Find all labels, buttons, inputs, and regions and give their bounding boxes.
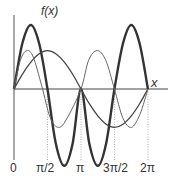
x-axis-label: x (151, 76, 158, 89)
x-tick-2pi: 2π (140, 162, 155, 174)
x-tick-pi: π (76, 162, 84, 174)
x-tick-3pi-half: 3π/2 (103, 162, 128, 174)
plot-area (0, 0, 173, 184)
x-tick-pi-half: π/2 (36, 162, 54, 174)
y-axis-label: f(x) (41, 5, 58, 17)
x-tick-0: 0 (10, 162, 17, 174)
